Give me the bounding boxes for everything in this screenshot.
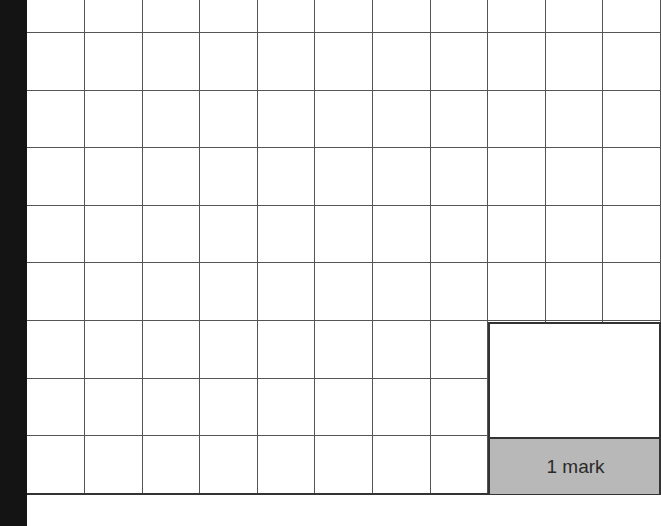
binding-edge	[0, 0, 27, 526]
grid-horizontal-line	[27, 90, 661, 91]
grid-horizontal-line	[27, 32, 661, 33]
grid-horizontal-line	[27, 205, 661, 206]
grid-vertical-line	[84, 0, 85, 494]
mark-box-label: 1 mark	[490, 437, 661, 494]
grid-vertical-line	[257, 0, 258, 494]
grid-vertical-line	[142, 0, 143, 494]
grid-vertical-line	[199, 0, 200, 494]
mark-box: 1 mark	[488, 322, 661, 494]
mark-box-answer-area[interactable]	[490, 324, 661, 437]
grid-vertical-line	[430, 0, 431, 494]
grid-vertical-line	[314, 0, 315, 494]
grid-horizontal-line	[27, 320, 661, 321]
grid-vertical-line	[372, 0, 373, 494]
grid-horizontal-line	[27, 147, 661, 148]
grid-horizontal-line	[27, 262, 661, 263]
exam-page: 1 mark	[0, 0, 661, 526]
